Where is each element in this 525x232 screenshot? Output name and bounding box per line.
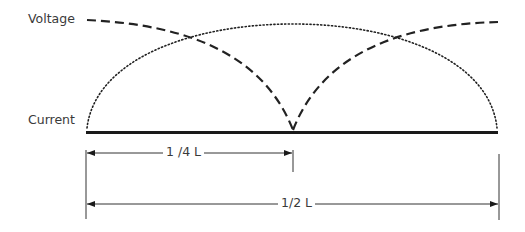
quarter-left-arrowhead-icon <box>87 150 95 156</box>
voltage-label: Voltage <box>28 13 75 26</box>
quarter-length-label: 1 /4 L <box>163 146 204 159</box>
half-right-arrowhead-icon <box>490 201 498 207</box>
standing-wave-diagram <box>0 0 525 232</box>
current-label: Current <box>28 114 75 127</box>
quarter-right-arrowhead-icon <box>284 150 292 156</box>
half-length-label: 1/2 L <box>278 197 315 210</box>
half-left-arrowhead-icon <box>87 201 95 207</box>
current-distribution-curve <box>87 24 497 128</box>
voltage-distribution-curve-right <box>293 22 498 130</box>
voltage-distribution-curve-left <box>87 20 293 130</box>
